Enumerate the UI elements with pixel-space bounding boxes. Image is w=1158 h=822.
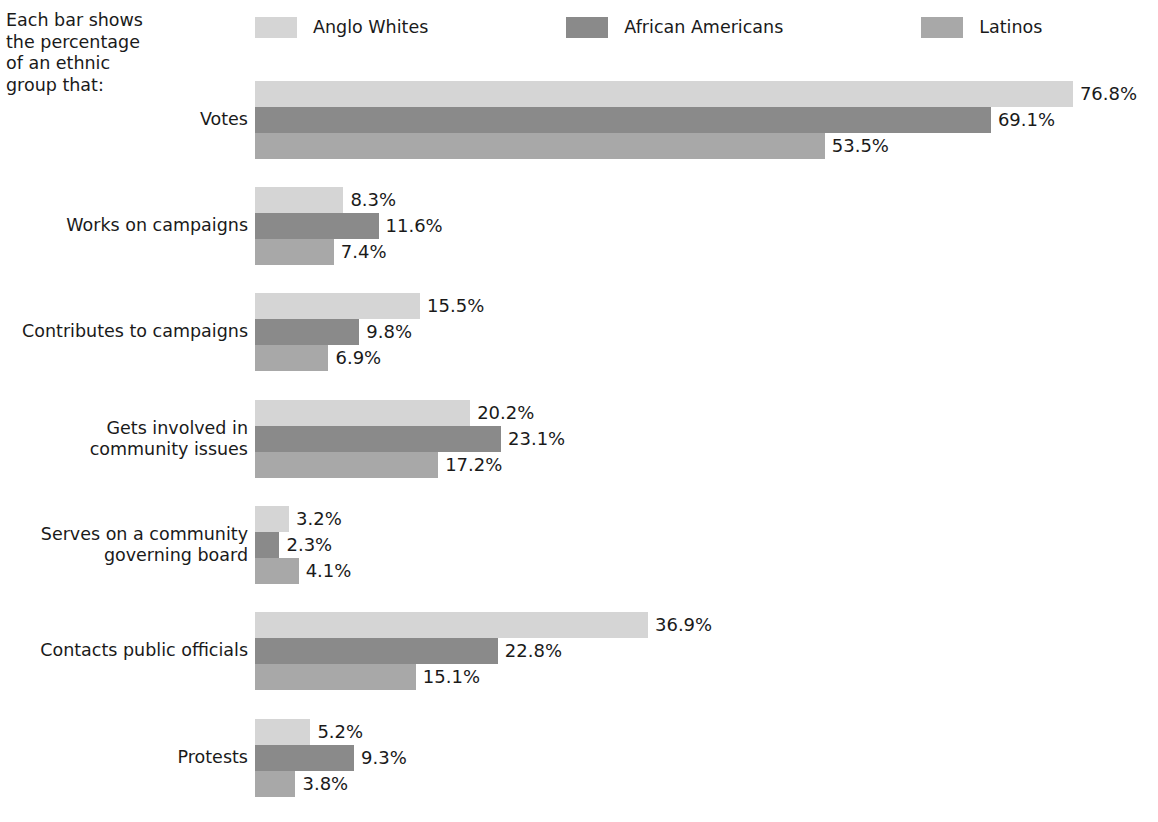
bar-anglo-whites[interactable] — [255, 506, 289, 532]
bar-african-americans[interactable] — [255, 426, 501, 452]
category-label: Works on campaigns — [0, 215, 248, 237]
bar-african-americans[interactable] — [255, 532, 279, 558]
bar-value-label: 7.4% — [334, 239, 387, 265]
category-label: Serves on a community governing board — [0, 524, 248, 567]
bar-anglo-whites[interactable] — [255, 719, 310, 745]
bar-anglo-whites[interactable] — [255, 612, 648, 638]
bar-african-americans[interactable] — [255, 107, 991, 133]
bar-latinos[interactable] — [255, 345, 328, 371]
bar-african-americans[interactable] — [255, 319, 359, 345]
bar-value-label: 4.1% — [299, 558, 352, 584]
bar-value-label: 15.1% — [416, 664, 480, 690]
bar-group: Contributes to campaigns15.5%9.8%6.9% — [0, 293, 1158, 371]
bar-african-americans[interactable] — [255, 745, 354, 771]
bar-value-label: 36.9% — [648, 612, 712, 638]
bar-group: Protests5.2%9.3%3.8% — [0, 719, 1158, 797]
bar-anglo-whites[interactable] — [255, 400, 470, 426]
bar-african-americans[interactable] — [255, 213, 379, 239]
bar-anglo-whites[interactable] — [255, 81, 1073, 107]
bar-value-label: 3.8% — [295, 771, 348, 797]
category-label: Protests — [0, 747, 248, 769]
bar-latinos[interactable] — [255, 558, 299, 584]
bar-value-label: 6.9% — [328, 345, 381, 371]
chart-root: Each bar shows the percentage of an ethn… — [0, 0, 1158, 822]
bar-value-label: 76.8% — [1073, 81, 1137, 107]
bar-value-label: 20.2% — [470, 400, 534, 426]
bar-value-label: 11.6% — [379, 213, 443, 239]
bar-value-label: 69.1% — [991, 107, 1055, 133]
bar-value-label: 2.3% — [279, 532, 332, 558]
bar-group: Votes76.8%69.1%53.5% — [0, 81, 1158, 159]
bar-value-label: 53.5% — [825, 133, 889, 159]
bar-latinos[interactable] — [255, 452, 438, 478]
category-label: Votes — [0, 109, 248, 131]
bar-latinos[interactable] — [255, 771, 295, 797]
bar-latinos[interactable] — [255, 133, 825, 159]
bar-value-label: 22.8% — [498, 638, 562, 664]
category-label: Contacts public officials — [0, 640, 248, 662]
bar-value-label: 23.1% — [501, 426, 565, 452]
bar-value-label: 9.3% — [354, 745, 407, 771]
bar-group: Contacts public officials36.9%22.8%15.1% — [0, 612, 1158, 690]
bar-value-label: 9.8% — [359, 319, 412, 345]
category-label: Contributes to campaigns — [0, 321, 248, 343]
bar-value-label: 5.2% — [310, 719, 363, 745]
bar-african-americans[interactable] — [255, 638, 498, 664]
bar-latinos[interactable] — [255, 664, 416, 690]
bar-value-label: 8.3% — [343, 187, 396, 213]
bar-value-label: 15.5% — [420, 293, 484, 319]
bar-value-label: 17.2% — [438, 452, 502, 478]
bar-group: Serves on a community governing board3.2… — [0, 506, 1158, 584]
bar-group: Gets involved in community issues20.2%23… — [0, 400, 1158, 478]
bar-anglo-whites[interactable] — [255, 293, 420, 319]
category-label: Gets involved in community issues — [0, 418, 248, 461]
bar-value-label: 3.2% — [289, 506, 342, 532]
plot-area: Votes76.8%69.1%53.5%Works on campaigns8.… — [0, 0, 1158, 822]
bar-anglo-whites[interactable] — [255, 187, 343, 213]
bar-group: Works on campaigns8.3%11.6%7.4% — [0, 187, 1158, 265]
bar-latinos[interactable] — [255, 239, 334, 265]
